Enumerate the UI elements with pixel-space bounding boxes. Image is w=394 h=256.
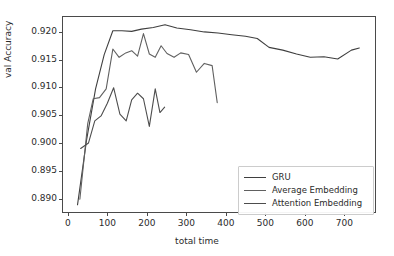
chart-legend: GRU Average Embedding Attention Embeddin… [238, 166, 374, 215]
x-tick-label: 100 [87, 219, 127, 228]
x-tick-label: 500 [245, 219, 285, 228]
series-line [81, 88, 165, 149]
x-tick-label: 0 [48, 219, 88, 228]
legend-swatch-average-embedding [244, 190, 266, 191]
legend-label-average-embedding: Average Embedding [272, 186, 358, 195]
x-tick-mark [68, 213, 69, 216]
x-tick-mark [107, 213, 108, 216]
legend-item-attention-embedding[interactable]: Attention Embedding [244, 197, 368, 210]
x-tick-label: 400 [206, 219, 246, 228]
x-tick-label: 700 [324, 219, 364, 228]
x-tick-mark [186, 213, 187, 216]
y-tick-label: 0.890 [31, 194, 57, 203]
y-tick-label: 0.915 [31, 55, 57, 64]
legend-item-average-embedding[interactable]: Average Embedding [244, 184, 368, 197]
y-tick-label: 0.895 [31, 166, 57, 175]
legend-label-attention-embedding: Attention Embedding [272, 199, 362, 208]
y-axis-label: val Accuracy [3, 21, 13, 78]
legend-swatch-attention-embedding [244, 203, 266, 204]
legend-item-gru[interactable]: GRU [244, 171, 368, 184]
y-tick-label: 0.920 [31, 27, 57, 36]
y-tick-label: 0.910 [31, 82, 57, 91]
legend-label-gru: GRU [272, 173, 291, 182]
x-axis-label: total time [0, 236, 394, 246]
x-tick-label: 300 [166, 219, 206, 228]
y-tick-label: 0.905 [31, 110, 57, 119]
x-tick-mark [147, 213, 148, 216]
chart-figure: val Accuracy 0.8900.8950.9000.9050.9100.… [0, 0, 394, 256]
legend-swatch-gru [244, 177, 266, 178]
x-tick-label: 600 [285, 219, 325, 228]
x-tick-label: 200 [127, 219, 167, 228]
y-tick-label: 0.900 [31, 138, 57, 147]
x-tick-mark [226, 213, 227, 216]
